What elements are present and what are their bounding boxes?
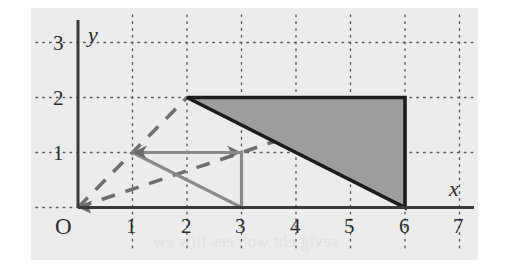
x-tick-6: 6 [399,214,410,239]
x-tick-2: 2 [181,214,192,239]
x-tick-3: 3 [235,214,246,239]
y-tick-3: 3 [53,31,64,56]
x-tick-1: 1 [126,214,137,239]
coordinate-diagram [0,0,508,274]
y-tick-1: 1 [53,141,64,166]
y-tick-2: 2 [53,86,64,111]
x-axis-label: x [449,176,459,202]
origin-label: O [55,214,72,240]
x-tick-5: 5 [344,214,355,239]
x-tick-7: 7 [453,214,464,239]
diagram-stage: sevig eht woh ees lliw ew [0,0,508,274]
y-axis-label: y [88,22,98,48]
x-tick-4: 4 [290,214,301,239]
